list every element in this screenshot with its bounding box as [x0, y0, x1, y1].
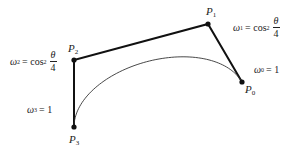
omega-symbol: ω — [10, 57, 17, 67]
control-point-p2 — [71, 57, 76, 62]
omega-sub: 1 — [240, 25, 243, 31]
weight-label-w1: ω1 = cos2 θ4 — [233, 16, 280, 39]
fraction: θ4 — [50, 50, 57, 73]
fraction: θ4 — [273, 16, 280, 39]
label-p2-letter: P — [68, 42, 75, 54]
label-p3: P3 — [69, 134, 79, 147]
weight-sup: 2 — [267, 25, 270, 31]
omega-symbol: ω — [27, 105, 34, 115]
omega-sub: 3 — [34, 107, 37, 113]
label-p1-letter: P — [206, 5, 213, 17]
fraction-denominator: 4 — [51, 63, 56, 73]
label-p3-letter: P — [69, 133, 76, 145]
label-p0-letter: P — [245, 83, 252, 95]
fraction-denominator: 4 — [274, 29, 279, 39]
control-point-p0 — [239, 79, 244, 84]
label-p0-sub: 0 — [252, 89, 256, 97]
label-p1-sub: 1 — [213, 11, 217, 19]
label-p2: P2 — [68, 43, 78, 56]
weight-label-w2: ω2 = cos2 θ4 — [10, 50, 57, 73]
control-point-p3 — [71, 124, 76, 129]
weight-eq: = cos — [245, 23, 266, 33]
label-p3-sub: 3 — [76, 139, 80, 147]
omega-symbol: ω — [233, 23, 240, 33]
rational-bezier-curve — [74, 57, 242, 127]
fraction-numerator: θ — [51, 50, 56, 60]
label-p2-sub: 2 — [75, 48, 79, 56]
weight-label-w3: ω3 = 1 — [27, 105, 52, 115]
control-point-p1 — [205, 21, 210, 26]
weight-eq: = 1 — [266, 65, 279, 75]
weight-label-w0: ω0 = 1 — [254, 65, 279, 75]
weight-sup: 2 — [44, 59, 47, 65]
label-p0: P0 — [245, 84, 255, 97]
omega-sub: 2 — [17, 59, 20, 65]
omega-symbol: ω — [254, 65, 261, 75]
weight-eq: = 1 — [39, 105, 52, 115]
label-p1: P1 — [206, 6, 216, 19]
weight-eq: = cos — [22, 57, 43, 67]
omega-sub: 0 — [261, 67, 264, 73]
fraction-numerator: θ — [274, 16, 279, 26]
control-polygon — [74, 24, 242, 127]
